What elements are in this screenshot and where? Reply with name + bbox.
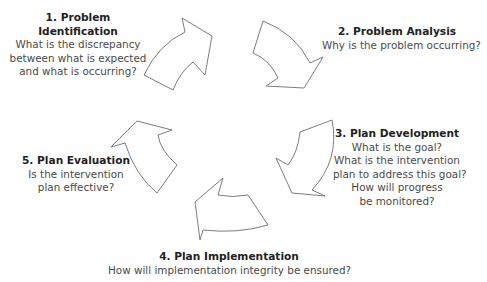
step-title: 1. Problem Identification — [8, 11, 148, 38]
step-text: plan to address this goal? — [333, 168, 461, 182]
cycle-arrow-3-icon — [276, 120, 334, 196]
step-5-plan-evaluation: 5. Plan Evaluation Is the intervention p… — [20, 154, 132, 195]
step-title: 5. Plan Evaluation — [20, 154, 132, 168]
step-text: Why is the problem occurring? — [322, 39, 472, 53]
cycle-arrow-1-icon — [144, 18, 212, 90]
step-text: and what is occurring? — [8, 65, 148, 79]
cycle-arrow-2-icon — [253, 21, 323, 88]
step-text: What is the goal? — [333, 141, 461, 155]
step-text: be monitored? — [333, 195, 461, 209]
step-text: What is the intervention — [333, 154, 461, 168]
step-title: 4. Plan Implementation — [108, 250, 350, 264]
step-text: What is the discrepancy — [8, 38, 148, 52]
step-2-problem-analysis: 2. Problem Analysis Why is the problem o… — [322, 25, 472, 52]
step-3-plan-development: 3. Plan Development What is the goal? Wh… — [333, 127, 461, 209]
step-4-plan-implementation: 4. Plan Implementation How will implemen… — [108, 250, 350, 277]
step-title: 3. Plan Development — [333, 127, 461, 141]
step-title: 2. Problem Analysis — [322, 25, 472, 39]
step-1-problem-identification: 1. Problem Identification What is the di… — [8, 11, 148, 79]
step-text: between what is expected — [8, 52, 148, 66]
step-text: How will progress — [333, 181, 461, 195]
cycle-arrow-4-icon — [195, 178, 268, 240]
step-text: How will implementation integrity be ens… — [108, 264, 350, 278]
step-text: plan effective? — [20, 181, 132, 195]
step-text: Is the intervention — [20, 168, 132, 182]
